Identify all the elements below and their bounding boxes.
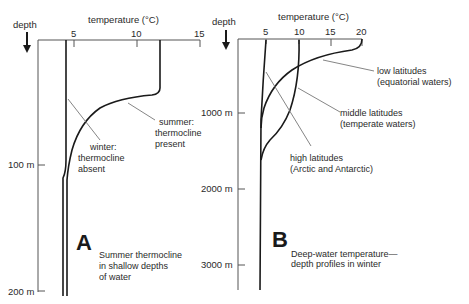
x-tick-b-5: 5 — [263, 26, 268, 37]
depth-label-b: depth — [212, 16, 236, 27]
y-tick-b-2000: 2000 m — [201, 183, 233, 194]
curve-winter — [63, 40, 66, 296]
y-tick-a-200: 200 m — [8, 286, 34, 297]
x-tick-a-15: 15 — [194, 28, 205, 39]
low-latitudes-label: low latitudes (equatorial waters) — [377, 66, 452, 87]
curve-high-latitudes — [260, 40, 266, 290]
middle-latitudes-label: middle latitudes (temperate waters) — [340, 108, 416, 129]
temperature-label-b: temperature (°C) — [278, 11, 349, 22]
high-latitudes-label: high latitudes (Arctic and Antarctic) — [290, 153, 373, 174]
x-tick-a-5: 5 — [71, 28, 76, 39]
winter-label: winter: thermocline absent — [78, 142, 127, 174]
summer-label: summer: thermocline present — [155, 117, 204, 149]
panel-letter-a: A — [76, 230, 92, 255]
x-tick-b-10: 10 — [294, 26, 305, 37]
caption-a: Summer thermocline in shallow depths of … — [99, 250, 185, 282]
panel-letter-b: B — [272, 227, 288, 252]
x-tick-b-20: 20 — [356, 26, 367, 37]
y-tick-a-100: 100 m — [8, 159, 34, 170]
temperature-label-a: temperature (°C) — [88, 14, 159, 25]
y-tick-b-1000: 1000 m — [201, 107, 233, 118]
depth-arrow-icon — [23, 32, 31, 53]
panel-b: depth temperature (°C) 5 10 15 20 1000 m… — [201, 11, 452, 290]
panel-a: depth temperature (°C) 5 10 15 100 m 200… — [8, 14, 205, 297]
x-tick-a-10: 10 — [131, 28, 142, 39]
depth-arrow-icon — [222, 30, 230, 50]
caption-b: Deep-water temperature— depth profiles i… — [291, 249, 400, 269]
thermocline-diagram: depth temperature (°C) 5 10 15 100 m 200… — [0, 0, 469, 304]
depth-label-a: depth — [13, 19, 37, 30]
y-tick-b-3000: 3000 m — [201, 259, 233, 270]
x-tick-b-15: 15 — [325, 26, 336, 37]
